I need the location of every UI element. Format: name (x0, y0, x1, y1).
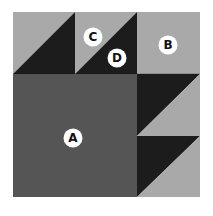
label-badge-a: A (64, 129, 83, 148)
label-badge-b: B (159, 36, 178, 55)
seam-line (13, 73, 200, 74)
label-badge-d: D (108, 49, 127, 68)
hst-cell-top-left (13, 12, 75, 74)
label-badge-c: C (84, 28, 103, 47)
hst-cell-top-middle (75, 12, 137, 74)
hst-cell-bottom-right (137, 136, 200, 197)
hst-cell-middle-right (137, 74, 200, 136)
